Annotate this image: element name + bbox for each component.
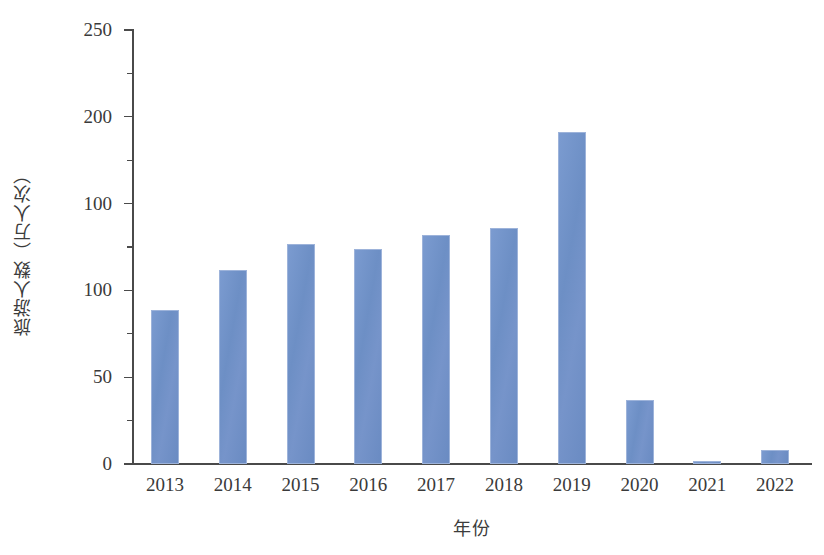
x-axis-tick-label: 2022 xyxy=(735,474,815,496)
bar-2013 xyxy=(151,310,179,465)
bar-2015 xyxy=(287,244,315,464)
bar-2016 xyxy=(354,249,382,464)
bar-2020 xyxy=(626,400,654,464)
bar-2014 xyxy=(219,270,247,464)
y-axis-major-tick xyxy=(124,377,133,378)
x-axis-title-text: 年份 xyxy=(453,518,491,539)
bar-2021 xyxy=(693,461,721,464)
y-axis-tick-label: 50 xyxy=(36,366,112,388)
bar-2018 xyxy=(490,228,518,464)
bar-2017 xyxy=(422,235,450,464)
y-axis-major-tick xyxy=(124,290,133,291)
y-axis-title-text: 旅游人数（万人次） xyxy=(11,165,37,336)
bar-chart: 旅游人数（万人次） 250200100100500 20132014201520… xyxy=(0,0,824,555)
y-axis-tick-label: 0 xyxy=(36,453,112,475)
bar-2022 xyxy=(761,450,789,464)
plot-area xyxy=(133,30,811,464)
y-axis-major-tick xyxy=(124,116,133,117)
y-axis-tick-label: 100 xyxy=(36,193,112,215)
bar-2019 xyxy=(558,132,586,464)
y-axis-major-tick xyxy=(124,463,133,464)
y-axis-tick-label: 200 xyxy=(36,106,112,128)
y-axis-title: 旅游人数（万人次） xyxy=(0,0,48,500)
y-axis-major-tick xyxy=(124,29,133,30)
x-axis-title: 年份 xyxy=(133,514,811,540)
y-axis-tick-label: 100 xyxy=(36,279,112,301)
y-axis-major-tick xyxy=(124,203,133,204)
y-axis-tick-label: 250 xyxy=(36,19,112,41)
